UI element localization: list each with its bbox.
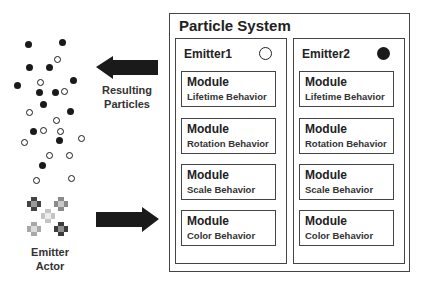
- filled-particle-icon: [30, 128, 37, 135]
- particle-system-title: Particle System: [179, 17, 291, 34]
- hollow-particle-icon: [21, 139, 28, 146]
- emitter-2-module-color: Module Color Behavior: [299, 210, 394, 246]
- module-behavior: Lifetime Behavior: [187, 91, 267, 102]
- hollow-particle-icon: [40, 127, 47, 134]
- hollow-particle-icon: [66, 152, 73, 159]
- emitter-2-title: Emitter2: [302, 47, 350, 61]
- filled-particle-icon: [46, 64, 53, 71]
- emitter-2-box: Emitter2 Module Lifetime Behavior Module…: [293, 38, 405, 264]
- module-title: Module: [187, 168, 229, 182]
- emitter-1-module-scale: Module Scale Behavior: [181, 164, 276, 200]
- resulting-label-line2: Particles: [98, 97, 156, 111]
- module-behavior: Scale Behavior: [305, 184, 373, 195]
- hollow-particle-icon: [78, 135, 85, 142]
- emitter-2-module-lifetime: Module Lifetime Behavior: [299, 71, 394, 107]
- emitter-sprite-icon: [41, 209, 55, 223]
- filled-particle-icon: [36, 89, 43, 96]
- emitter-actor-label-line2: Actor: [22, 259, 78, 273]
- module-title: Module: [187, 214, 229, 228]
- filled-particle-icon: [14, 82, 21, 89]
- module-behavior: Rotation Behavior: [187, 138, 269, 149]
- filled-particle-icon: [67, 108, 74, 115]
- module-title: Module: [187, 75, 229, 89]
- emitter-1-title: Emitter1: [184, 47, 232, 61]
- module-title: Module: [305, 214, 347, 228]
- emitter-sprite-icon: [27, 197, 41, 211]
- module-title: Module: [305, 168, 347, 182]
- filled-particle-icon: [40, 101, 47, 108]
- hollow-particle-icon: [33, 177, 40, 184]
- module-behavior: Color Behavior: [305, 230, 373, 241]
- hollow-particle-icon: [57, 128, 64, 135]
- emitter-1-module-color: Module Color Behavior: [181, 210, 276, 246]
- hollow-particle-icon: [54, 56, 61, 63]
- resulting-particles-label: Resulting Particles: [98, 83, 156, 111]
- output-arrow-icon: [94, 54, 160, 82]
- hollow-particle-icon: [61, 88, 68, 95]
- emitter-sprite-icon: [54, 222, 68, 236]
- filled-circle-icon: [377, 47, 390, 60]
- filled-particle-icon: [26, 64, 33, 71]
- hollow-particle-icon: [46, 152, 53, 159]
- emitter-1-module-rotation: Module Rotation Behavior: [181, 118, 276, 154]
- module-behavior: Rotation Behavior: [305, 138, 387, 149]
- filled-particle-icon: [52, 89, 59, 96]
- module-title: Module: [187, 122, 229, 136]
- module-title: Module: [305, 75, 347, 89]
- input-arrow-icon: [94, 205, 162, 235]
- filled-particle-icon: [25, 41, 32, 48]
- filled-particle-icon: [70, 77, 77, 84]
- hollow-particle-icon: [68, 175, 75, 182]
- module-behavior: Lifetime Behavior: [305, 91, 385, 102]
- particle-system-box: Particle System Emitter1 Module Lifetime…: [169, 13, 410, 272]
- hollow-particle-icon: [26, 109, 33, 116]
- emitter-2-module-rotation: Module Rotation Behavior: [299, 118, 394, 154]
- hollow-circle-icon: [259, 47, 272, 60]
- hollow-particle-icon: [37, 79, 44, 86]
- filled-particle-icon: [56, 137, 63, 144]
- filled-particle-icon: [59, 39, 66, 46]
- emitter-actor-label: Emitter Actor: [22, 245, 78, 273]
- emitter-2-module-scale: Module Scale Behavior: [299, 164, 394, 200]
- emitter-sprite-icon: [54, 197, 68, 211]
- module-title: Module: [305, 122, 347, 136]
- resulting-label-line1: Resulting: [98, 83, 156, 97]
- hollow-particle-icon: [53, 117, 60, 124]
- emitter-actor-label-line1: Emitter: [22, 245, 78, 259]
- module-behavior: Scale Behavior: [187, 184, 255, 195]
- emitter-sprite-icon: [27, 222, 41, 236]
- emitter-1-box: Emitter1 Module Lifetime Behavior Module…: [175, 38, 287, 264]
- filled-particle-icon: [39, 162, 46, 169]
- emitter-1-module-lifetime: Module Lifetime Behavior: [181, 71, 276, 107]
- module-behavior: Color Behavior: [187, 230, 255, 241]
